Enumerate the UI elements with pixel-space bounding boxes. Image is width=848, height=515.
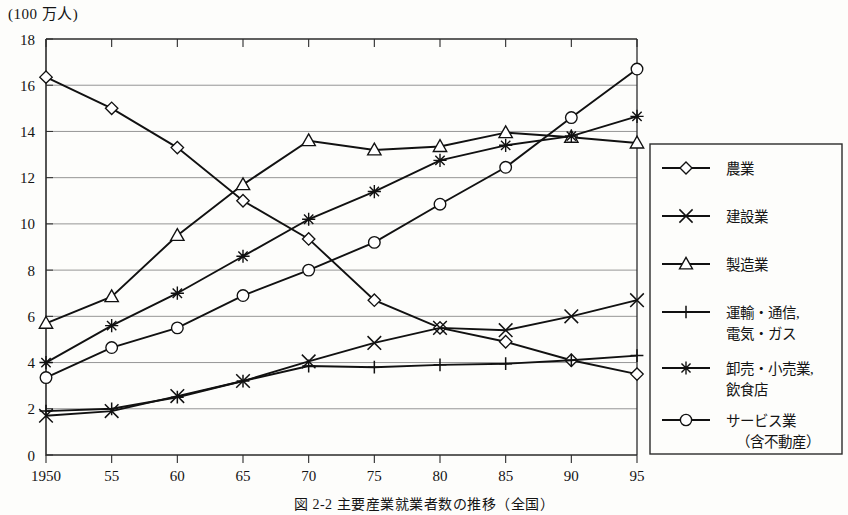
legend-label: 製造業 <box>726 257 768 273</box>
marker-plus <box>631 349 644 362</box>
x-tick-label: 95 <box>630 468 645 484</box>
marker-circle <box>237 290 249 302</box>
legend-label: 運輸・通信, <box>726 305 800 321</box>
marker-asterisk <box>565 129 578 142</box>
marker-triangle <box>302 134 315 146</box>
y-tick-label: 8 <box>28 263 36 279</box>
marker-triangle <box>236 178 249 190</box>
series-line <box>46 116 637 362</box>
x-tick-label: 80 <box>433 468 448 484</box>
figure-caption: 図 2-2 主要産業就業者数の推移（全国） <box>0 493 848 515</box>
series-line <box>46 77 637 374</box>
marker-diamond <box>40 71 52 83</box>
series-4 <box>39 110 643 369</box>
legend-item-3[interactable]: 運輸・通信,電気・ガス <box>662 305 800 343</box>
y-tick-label: 0 <box>28 448 36 464</box>
legend-box <box>650 144 842 454</box>
marker-circle <box>106 342 118 354</box>
marker-plus <box>680 306 692 318</box>
series-2 <box>39 126 643 328</box>
marker-diamond <box>499 336 511 348</box>
y-tick-label: 2 <box>28 401 36 417</box>
line-chart: 0246810121416181950556065707580859095農業建… <box>0 0 848 515</box>
marker-diamond <box>631 368 643 380</box>
y-tick-label: 6 <box>28 309 36 325</box>
x-tick-label: 90 <box>564 468 579 484</box>
x-tick-label: 70 <box>301 468 316 484</box>
marker-circle <box>500 161 512 173</box>
marker-circle <box>369 237 381 249</box>
x-tick-label: 60 <box>170 468 185 484</box>
y-tick-label: 12 <box>20 170 35 186</box>
marker-asterisk <box>680 362 693 375</box>
y-tick-label: 16 <box>20 78 36 94</box>
series-line <box>46 300 637 416</box>
marker-circle <box>172 322 184 334</box>
series-5 <box>40 63 643 383</box>
marker-plus <box>105 402 118 415</box>
legend-label: 卸売・小売業, <box>726 361 814 377</box>
marker-asterisk <box>39 356 52 369</box>
marker-asterisk <box>368 185 381 198</box>
legend-label: 農業 <box>726 161 754 177</box>
x-tick-label: 55 <box>104 468 119 484</box>
marker-circle <box>566 112 578 124</box>
series-line <box>46 133 637 324</box>
y-tick-label: 10 <box>20 216 35 232</box>
marker-asterisk <box>499 139 512 152</box>
marker-plus <box>434 358 447 371</box>
marker-circle <box>434 198 446 210</box>
marker-triangle <box>171 229 184 241</box>
marker-plus <box>499 357 512 370</box>
marker-asterisk <box>302 213 315 226</box>
marker-x <box>368 336 382 350</box>
x-tick-label: 75 <box>367 468 382 484</box>
marker-plus <box>565 354 578 367</box>
y-tick-label: 18 <box>20 32 35 48</box>
marker-asterisk <box>105 319 118 332</box>
marker-diamond <box>105 102 117 114</box>
series-line <box>46 356 637 411</box>
x-tick-label: 65 <box>236 468 251 484</box>
x-tick-label: 1950 <box>31 468 61 484</box>
legend-item-2[interactable]: 製造業 <box>662 257 768 273</box>
marker-plus <box>302 360 315 373</box>
marker-diamond <box>680 162 692 174</box>
legend-item-4[interactable]: 卸売・小売業,飲食店 <box>662 361 814 399</box>
marker-circle <box>680 414 691 425</box>
marker-plus <box>171 391 184 404</box>
legend-item-1[interactable]: 建設業 <box>662 209 768 225</box>
legend-label-line2: 飲食店 <box>726 382 768 398</box>
marker-circle <box>631 63 643 75</box>
chart-plot-area: 0246810121416181950556065707580859095農業建… <box>0 0 848 515</box>
figure-container: (100 万人) 0246810121416181950556065707580… <box>0 0 848 515</box>
legend-label-line2: （含不動産） <box>736 434 820 450</box>
marker-asterisk <box>236 250 249 263</box>
legend-item-0[interactable]: 農業 <box>662 161 754 177</box>
legend-item-5[interactable]: サービス業（含不動産） <box>662 413 820 451</box>
marker-circle <box>40 372 52 384</box>
y-tick-label: 4 <box>28 355 36 371</box>
legend-label-line2: 電気・ガス <box>726 326 796 342</box>
y-tick-label: 14 <box>20 124 36 140</box>
series-0 <box>40 71 643 380</box>
marker-asterisk <box>433 154 446 167</box>
legend-label: サービス業 <box>726 413 796 429</box>
marker-circle <box>303 264 315 276</box>
series-1 <box>39 293 644 422</box>
marker-asterisk <box>171 287 184 300</box>
series-line <box>46 69 637 378</box>
axis-lines <box>46 39 637 455</box>
marker-asterisk <box>630 110 643 123</box>
legend-label: 建設業 <box>726 209 768 225</box>
x-tick-label: 85 <box>498 468 513 484</box>
